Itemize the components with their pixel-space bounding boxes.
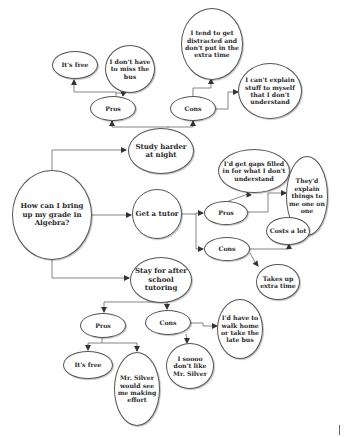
- node-label: Cons: [159, 319, 176, 326]
- node-label: I can't explain stuff to myself that I d…: [241, 76, 299, 106]
- node-tutor-pros-gaps: I'd get gaps filled in for what I don't …: [218, 149, 290, 193]
- node-label: I soooo don't like Mr. Silver: [169, 355, 211, 377]
- node-label: I'd get gaps filled in for what I don't …: [221, 160, 287, 182]
- node-label: Costs a lot: [270, 227, 307, 234]
- node-tutor-cons-costs: Costs a lot: [266, 217, 310, 245]
- node-study-cons: Cons: [170, 96, 216, 121]
- node-label: Get a tutor: [136, 210, 179, 219]
- node-label: Cons: [184, 105, 201, 112]
- node-root-question: How can I bring up my grade in Algebra?: [12, 170, 92, 260]
- node-stay-pros-silver: Mr. Silver would see me making effort: [114, 352, 160, 426]
- node-label: Pros: [95, 322, 111, 329]
- diagram-canvas: It's free I don't have to miss the bus P…: [0, 0, 347, 437]
- node-stay-cons: Cons: [145, 310, 191, 335]
- text-cursor: [339, 425, 340, 435]
- node-tutor-pros: Pros: [204, 201, 248, 225]
- node-study-cons-explain: I can't explain stuff to myself that I d…: [238, 63, 302, 119]
- node-label: They'd explain things to me one on one: [289, 177, 325, 214]
- node-label: Pros: [105, 105, 121, 112]
- node-label: Pros: [218, 209, 234, 216]
- node-study-cons-distracted: I tend to get distracted and don't put i…: [181, 8, 243, 80]
- node-label: Takes up extra time: [259, 275, 297, 290]
- node-label: I tend to get distracted and don't put i…: [184, 29, 240, 59]
- node-stay: Stay for after school tutoring: [130, 257, 192, 303]
- node-label: It's free: [61, 61, 88, 68]
- node-stay-cons-dislike: I soooo don't like Mr. Silver: [166, 343, 214, 389]
- node-study-pros-free: It's free: [52, 51, 98, 79]
- node-tutor-cons-time: Takes up extra time: [256, 264, 300, 300]
- node-study-pros-bus: I don't have to miss the bus: [105, 45, 155, 93]
- node-study-pros: Pros: [90, 96, 136, 121]
- node-label: How can I bring up my grade in Algebra?: [15, 202, 89, 228]
- node-study: Study harder at night: [128, 128, 194, 174]
- node-tutor-cons: Cons: [204, 237, 250, 261]
- node-label: I don't have to miss the bus: [108, 58, 152, 80]
- node-stay-pros-free: It's free: [63, 351, 113, 379]
- node-label: Cons: [218, 245, 235, 252]
- node-label: Study harder at night: [131, 143, 191, 160]
- node-tutor: Get a tutor: [132, 189, 182, 239]
- node-stay-pros: Pros: [80, 313, 126, 338]
- node-stay-cons-walk: I'd have to walk home or take the late b…: [217, 299, 263, 359]
- node-label: It's free: [74, 361, 101, 368]
- node-label: Stay for after school tutoring: [133, 267, 189, 293]
- node-label: Mr. Silver would see me making effort: [117, 374, 157, 404]
- node-label: I'd have to walk home or take the late b…: [220, 314, 260, 344]
